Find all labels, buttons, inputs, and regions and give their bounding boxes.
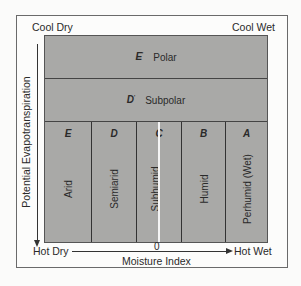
- column-perhumid: A Perhumid (Wet): [225, 122, 267, 242]
- x-axis-zero-tick: 0: [154, 241, 160, 252]
- column-letter: E: [45, 128, 91, 139]
- climate-grid: E' Polar D' Subpolar E Arid D Semiarid C…: [44, 35, 268, 243]
- row-letter: E': [135, 51, 143, 62]
- x-axis-arrow-icon: [226, 248, 233, 254]
- zero-moisture-line: [158, 122, 160, 242]
- row-subpolar: D' Subpolar: [45, 79, 267, 122]
- column-label: Humid: [198, 175, 209, 204]
- column-label: Semiarid: [109, 169, 120, 208]
- column-letter: A: [226, 128, 267, 139]
- corner-hot-dry: Hot Dry: [33, 245, 69, 257]
- corner-hot-wet: Hot Wet: [234, 245, 272, 257]
- column-label: Arid: [63, 180, 74, 198]
- row-polar: E' Polar: [45, 36, 267, 79]
- x-axis-line: [72, 251, 226, 252]
- corner-cool-wet: Cool Wet: [232, 21, 275, 33]
- column-letter: D: [92, 128, 136, 139]
- column-humid: B Humid: [181, 122, 225, 242]
- y-axis-label: Potential Evapotranspiration: [20, 76, 32, 207]
- row-letter: D': [127, 94, 135, 105]
- y-axis-line: [37, 44, 38, 242]
- row-label-subpolar: Subpolar: [145, 95, 185, 106]
- corner-cool-dry: Cool Dry: [32, 21, 73, 33]
- x-axis-label: Moisture Index: [122, 255, 191, 267]
- row-label-polar: Polar: [153, 52, 176, 63]
- column-letter: B: [182, 128, 225, 139]
- column-label: Perhumid (Wet): [241, 154, 252, 224]
- column-semiarid: D Semiarid: [91, 122, 136, 242]
- column-arid: E Arid: [45, 122, 91, 242]
